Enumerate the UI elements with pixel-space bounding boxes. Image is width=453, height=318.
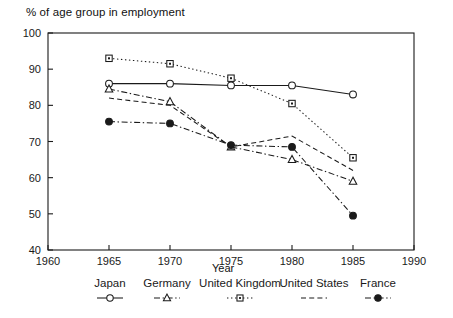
data-point-marker (167, 80, 174, 87)
legend-label: United States (279, 277, 348, 289)
data-point-marker (163, 294, 170, 301)
data-point-marker (289, 82, 296, 89)
x-tick-label: 1985 (341, 255, 365, 267)
x-axis-title: Year (212, 262, 234, 274)
y-tick-label: 60 (29, 172, 41, 184)
legend-label: France (360, 277, 396, 289)
y-tick-label: 80 (29, 99, 41, 111)
data-point-marker (107, 295, 113, 301)
legend-label: Japan (94, 277, 125, 289)
legend-label: Germany (143, 277, 191, 289)
x-tick-label: 1965 (97, 255, 121, 267)
x-tick-label: 1960 (36, 255, 60, 267)
data-point-marker (350, 91, 357, 98)
y-tick-label: 90 (29, 63, 41, 75)
data-point-marker-core (108, 57, 110, 59)
data-point-marker-core (352, 157, 354, 159)
data-point-marker (167, 120, 174, 127)
data-point-marker (106, 118, 113, 125)
data-series-group (105, 55, 357, 219)
data-point-marker-core (291, 103, 293, 105)
series-japan (106, 80, 357, 98)
legend: JapanGermanyUnited KingdomUnited StatesF… (94, 277, 396, 301)
series-line (109, 122, 353, 216)
y-tick-label: 50 (29, 208, 41, 220)
legend-label: United Kingdom (199, 277, 281, 289)
legend-item-united-states[interactable]: United States (279, 277, 348, 298)
series-line (109, 98, 353, 170)
data-point-marker-core (239, 297, 241, 299)
x-tick-label: 1990 (402, 255, 426, 267)
data-point-marker (350, 212, 357, 219)
legend-item-germany[interactable]: Germany (143, 277, 191, 301)
data-point-marker (228, 82, 235, 89)
chart-container: % of age group in employment 40506070809… (0, 0, 453, 318)
data-point-marker-core (230, 77, 232, 79)
x-tick-label: 1980 (280, 255, 304, 267)
data-point-marker-core (169, 63, 171, 65)
series-united-states (109, 98, 353, 170)
x-tick-label: 1970 (158, 255, 182, 267)
y-tick-label: 70 (29, 136, 41, 148)
data-point-marker (375, 295, 381, 301)
data-point-marker (289, 144, 296, 151)
data-point-marker (349, 177, 357, 184)
legend-item-united-kingdom[interactable]: United Kingdom (199, 277, 281, 301)
legend-item-france[interactable]: France (360, 277, 396, 301)
data-point-marker (228, 142, 235, 149)
legend-item-japan[interactable]: Japan (94, 277, 125, 301)
y-tick-label: 100 (23, 27, 41, 39)
series-germany (105, 85, 357, 184)
